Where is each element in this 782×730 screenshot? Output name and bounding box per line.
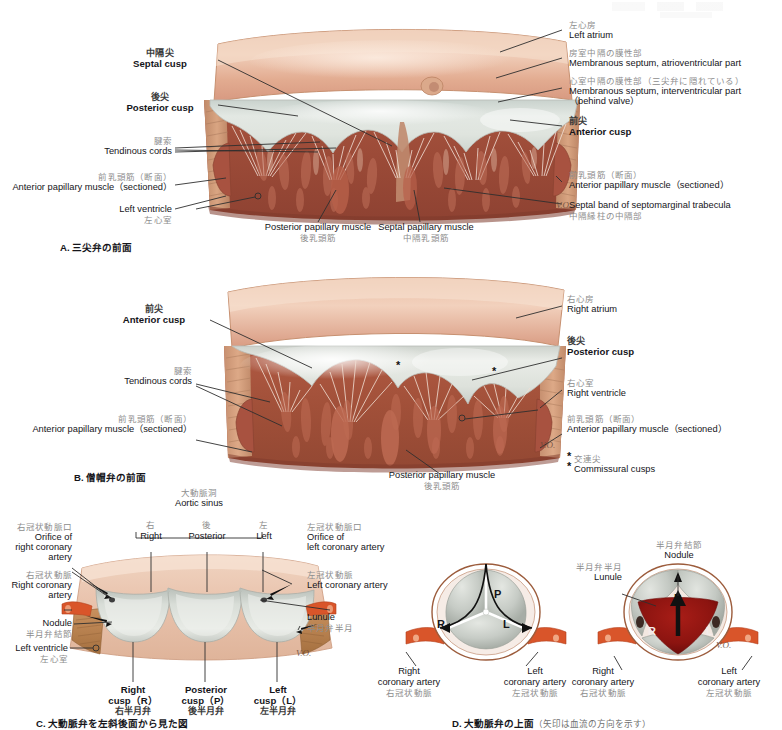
label-b-tendinous-cords-jp: 腱索 — [82, 366, 192, 376]
label-a-membranous-iv-en2: （behind valve） — [569, 96, 639, 107]
label-b-commissural-jp: 交連尖 — [574, 454, 602, 464]
label-a-septal-papillary-en: Septal papillary muscle — [348, 222, 504, 233]
commissural-legend-star-2: * — [567, 461, 571, 472]
label-d-right-lca-en1: Left — [692, 666, 766, 677]
panel-a-caption-jp: 三尖弁の前面 — [72, 242, 132, 253]
label-c-nodule-jp: 半月弁結節 — [0, 629, 72, 639]
panel-c-caption-jp: 大動脈弁を左斜後面から見た図 — [48, 718, 188, 729]
label-c-sinus-right-jp: 右 — [126, 520, 176, 530]
label-d-right-lca-jp: 左冠状動脈 — [680, 688, 778, 698]
label-a-left-ventricle-en: Left ventricle — [56, 204, 172, 215]
label-d-right-cusp-p: P — [674, 592, 681, 605]
label-d-right-lunule-en: Lunule — [544, 572, 622, 583]
panel-b-caption-jp: 僧帽弁の前面 — [86, 472, 146, 483]
label-b-anterior-papillary-right-en: Anterior papillary muscle（sectioned） — [567, 424, 727, 435]
panel-d-right-artwork — [598, 550, 758, 670]
panel-d-right-illustration — [598, 550, 758, 670]
label-a-membranous-iv-jp: 心室中隔の膜性部（三尖弁に隠れている） — [569, 76, 744, 86]
label-c-lunule-jp: 半月弁半月 — [307, 623, 353, 633]
label-c-orifice-rca-en3: artery — [0, 552, 72, 563]
label-d-right-nodule-en: Nodule — [640, 550, 718, 561]
label-d-left-cusp-l: L — [503, 618, 510, 631]
panel-c-caption-letter: C. — [36, 718, 46, 729]
label-a-septal-band-en: Septal band of septomarginal trabecula — [569, 200, 731, 211]
panel-d-left-illustration — [406, 550, 566, 670]
artist-signature-d: V.O. — [716, 640, 731, 650]
label-d-left-rca-en1: Right — [372, 666, 446, 677]
label-c-sinus-left-jp: 左 — [240, 520, 288, 530]
label-c-orifice-lca-jp: 左冠状動脈口 — [307, 522, 362, 532]
label-d-right-cusp-l: L — [706, 625, 713, 638]
label-c-left-ventricle-en: Left ventricle — [0, 643, 68, 654]
label-c-posterior-cusp-en1: Posterior — [168, 684, 244, 696]
label-c-sinus-posterior-en: Posterior — [178, 531, 236, 542]
label-c-posterior-cusp-en2: cusp（P） — [168, 695, 244, 707]
artist-signature-b: V.O. — [540, 440, 555, 450]
label-b-commissural-en: Commissural cusps — [574, 464, 655, 475]
label-b-anterior-papillary-left-en: Anterior papillary muscle（sectioned） — [20, 424, 192, 435]
label-a-left-atrium-jp: 左心房 — [569, 20, 597, 30]
label-c-orifice-lca-en2: left coronary artery — [307, 542, 385, 553]
panel-b-caption: B. 僧帽弁の前面 — [74, 470, 146, 484]
artist-signature-c: V.O. — [296, 648, 311, 658]
label-d-left-rca-jp: 右冠状動脈 — [360, 688, 458, 698]
label-a-tendinous-cords-en: Tendinous cords — [60, 146, 172, 157]
label-a-anterior-cusp-en: Anterior cusp — [569, 126, 631, 138]
label-c-lunule-en: Lunule — [307, 612, 335, 623]
label-b-right-atrium-en: Right atrium — [567, 304, 617, 315]
label-b-posterior-papillary-en: Posterior papillary muscle — [346, 470, 538, 481]
label-b-anterior-cusp-en: Anterior cusp — [100, 314, 208, 326]
panel-a-caption: A. 三尖弁の前面 — [60, 240, 132, 254]
panel-d-caption-letter: D. — [452, 718, 462, 729]
label-b-posterior-papillary-jp: 後乳頭筋 — [346, 481, 538, 491]
panel-a-caption-letter: A. — [60, 242, 70, 253]
panel-c-caption: C. 大動脈弁を左斜後面から見た図 — [36, 716, 188, 730]
label-d-right-rca-en1: Right — [566, 666, 640, 677]
label-c-right-cusp-en2: cusp（R） — [98, 695, 168, 707]
label-c-left-cusp-jp: 左半月弁 — [244, 706, 312, 717]
label-d-left-cusp-p: P — [494, 588, 501, 601]
panel-d-caption-jp: 大動脈弁の上面 — [464, 718, 534, 729]
label-b-posterior-cusp-en: Posterior cusp — [567, 346, 634, 358]
label-c-left-cusp-en1: Left — [244, 684, 312, 696]
label-b-anterior-papillary-right-jp: 前乳頭筋（断面） — [567, 414, 641, 424]
label-b-right-atrium-jp: 右心房 — [567, 294, 595, 304]
label-c-sinus-posterior-jp: 後 — [178, 520, 236, 530]
commissural-star-1: * — [396, 360, 400, 371]
label-b-tendinous-cords-en: Tendinous cords — [82, 376, 192, 387]
label-c-lca-jp: 左冠状動脈 — [307, 570, 353, 580]
label-c-rca-jp: 右冠状動脈 — [0, 570, 72, 580]
label-c-rca-en2: artery — [0, 590, 72, 601]
commissural-star-2: * — [492, 366, 496, 377]
label-d-right-cusp-r: R — [648, 625, 656, 638]
label-c-right-cusp-en1: Right — [98, 684, 168, 696]
label-b-anterior-papillary-left-jp: 前乳頭筋（断面） — [20, 414, 192, 424]
label-b-right-ventricle-jp: 右心室 — [567, 378, 595, 388]
label-d-left-lca-en1: Left — [498, 666, 572, 677]
label-a-septal-cusp-en: Septal cusp — [104, 58, 216, 70]
panel-d-caption-sub: （矢印は血流の方向を示す） — [534, 719, 651, 729]
label-c-aortic-sinus-jp: 大動脈洞 — [144, 488, 254, 498]
label-a-septal-papillary-jp: 中隔乳頭筋 — [348, 233, 504, 243]
panel-d-left-artwork — [406, 550, 566, 670]
label-a-septal-band-jp: 中隔縁柱の中隔部 — [569, 211, 643, 221]
label-d-right-lunule-jp: 半月弁半月 — [544, 562, 622, 572]
label-a-anterior-papillary-right-jp: 前乳頭筋（断面） — [569, 170, 643, 180]
label-d-left-cusp-r: R — [437, 618, 445, 631]
label-a-anterior-papillary-right-en: Anterior papillary muscle（sectioned） — [569, 180, 729, 191]
label-c-lca-en: Left coronary artery — [307, 580, 388, 591]
label-a-anterior-papillary-left-jp: 前乳頭筋（断面） — [0, 172, 172, 182]
label-c-nodule-en: Nodule — [0, 618, 72, 629]
label-a-membranous-av-jp: 房室中隔の膜性部 — [569, 48, 643, 58]
label-a-posterior-cusp-en: Posterior cusp — [104, 102, 216, 114]
label-a-tendinous-cords-jp: 腱索 — [60, 136, 172, 146]
label-c-sinus-left-en: Left — [240, 531, 288, 542]
label-c-sinus-right-en: Right — [126, 531, 176, 542]
label-c-left-cusp-en2: cusp（L） — [244, 695, 312, 707]
label-b-right-ventricle-en: Right ventricle — [567, 388, 626, 399]
panel-d-caption: D. 大動脈弁の上面（矢印は血流の方向を示す） — [452, 716, 651, 730]
label-c-orifice-rca-jp: 右冠状動脈口 — [0, 522, 72, 532]
label-a-membranous-av-en: Membranous septum, atrioventricular part — [569, 58, 741, 69]
label-d-left-rca-en2: coronary artery — [360, 677, 458, 688]
